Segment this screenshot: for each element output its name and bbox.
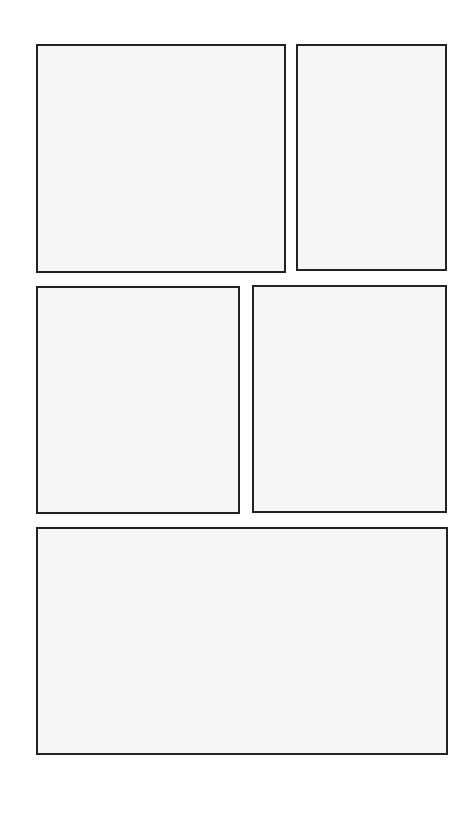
panel-3 — [36, 286, 240, 514]
comic-page — [0, 0, 456, 816]
panel-5 — [36, 527, 448, 755]
panel-1 — [36, 44, 286, 273]
panel-4 — [252, 285, 447, 513]
panel-2 — [296, 44, 447, 271]
